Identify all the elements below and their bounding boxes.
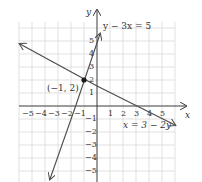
svg-text:−1: −1 bbox=[85, 114, 97, 123]
coordinate-graph: x y −5 −4 −3 −2 −1 1 2 3 4 5 5 4 3 2 1 −… bbox=[0, 0, 202, 182]
point-label: (−1, 2) bbox=[47, 83, 79, 93]
svg-text:−4: −4 bbox=[85, 153, 97, 162]
line-y-minus-3x-equals-5 bbox=[76, 34, 100, 105]
svg-text:−3: −3 bbox=[85, 140, 97, 149]
intersection-point bbox=[81, 77, 86, 82]
svg-text:5: 5 bbox=[89, 36, 94, 45]
svg-text:−2: −2 bbox=[85, 127, 97, 136]
svg-text:−3: −3 bbox=[48, 109, 60, 118]
svg-text:1: 1 bbox=[89, 88, 94, 97]
svg-text:−2: −2 bbox=[61, 109, 73, 118]
svg-text:3: 3 bbox=[134, 109, 139, 118]
line2-equation-label: x = 3 − 2y bbox=[123, 120, 172, 130]
svg-text:−4: −4 bbox=[35, 109, 47, 118]
svg-text:1: 1 bbox=[108, 109, 113, 118]
y-axis-label: y bbox=[85, 7, 92, 17]
line1-equation-label: y − 3x = 5 bbox=[102, 21, 151, 31]
svg-text:5: 5 bbox=[160, 109, 165, 118]
svg-text:−5: −5 bbox=[85, 166, 97, 175]
svg-text:2: 2 bbox=[121, 109, 126, 118]
svg-text:−5: −5 bbox=[22, 109, 34, 118]
x-axis-label: x bbox=[185, 110, 190, 120]
